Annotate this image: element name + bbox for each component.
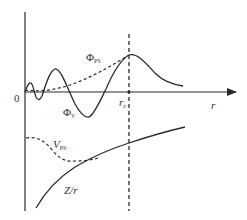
phi-v-label-main: Φ <box>63 106 71 118</box>
pseudopotential-diagram: 0 r rc ΦPS ΦV VPS Z/r <box>0 0 247 220</box>
v-ps-label: VPS <box>53 138 66 151</box>
phi-v-label-sub: V <box>71 113 76 119</box>
phi-ps-label-main: Φ <box>86 51 94 63</box>
z-over-r-label: Z/r <box>64 184 78 196</box>
origin-label: 0 <box>14 92 20 104</box>
phi-ps-label-sub: PS <box>94 58 101 64</box>
v-ps-label-sub: PS <box>60 145 67 151</box>
cutoff-marker <box>127 90 130 93</box>
phi-ps-label: ΦPS <box>86 51 101 64</box>
phi-v-curve <box>25 55 183 118</box>
x-axis-label: r <box>211 99 216 111</box>
phi-v-label: ΦV <box>63 106 76 119</box>
cutoff-label: rc <box>119 96 127 110</box>
cutoff-label-sub: c <box>123 102 127 110</box>
